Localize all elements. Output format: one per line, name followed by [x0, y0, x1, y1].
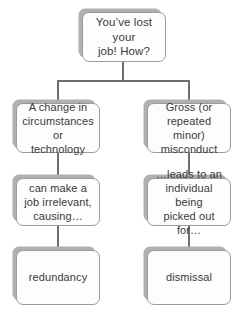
node-right-cause: Gross (or repeated minor) misconduct	[147, 103, 231, 153]
node-root-question: You’ve lost your job! How?	[82, 12, 166, 62]
node-root-label: You’ve lost your job! How?	[83, 15, 165, 59]
connector-left-effect-to-outcome	[57, 226, 59, 251]
node-right-effect-label: …leads to an individual being picked out…	[148, 167, 230, 237]
connector-left-cause-to-effect	[57, 153, 59, 179]
node-right-outcome: dismissal	[147, 250, 231, 305]
node-left-cause: A change in circumstances or technology	[16, 103, 100, 153]
connector-root-stem	[122, 62, 124, 81]
node-left-outcome-label: redundancy	[24, 270, 93, 284]
node-right-effect: …leads to an individual being picked out…	[147, 178, 231, 226]
connector-split-bar	[57, 80, 190, 82]
node-left-effect-label: can make a job irrelevant, causing…	[19, 181, 97, 223]
node-left-effect: can make a job irrelevant, causing…	[16, 178, 100, 226]
node-right-outcome-label: dismissal	[161, 270, 217, 284]
node-left-cause-label: A change in circumstances or technology	[17, 100, 99, 156]
node-right-cause-label: Gross (or repeated minor) misconduct	[148, 100, 230, 156]
node-left-outcome: redundancy	[16, 250, 100, 305]
flowchart-canvas: You’ve lost your job! How? A change in c…	[0, 0, 247, 317]
